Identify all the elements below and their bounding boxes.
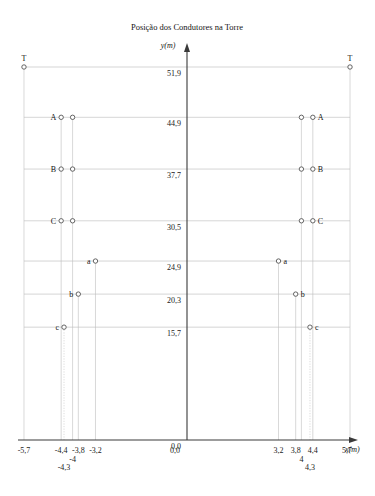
y-tick-label: 37,7 (167, 171, 181, 180)
x-tick-labels: -5,7-4,4-4,3-4-3,8-3,20,03,23,844,34,45,… (18, 446, 352, 472)
y-axis-arrow (184, 43, 190, 52)
data-point-label: A (50, 113, 56, 122)
data-point-label: C (318, 217, 323, 226)
data-point-label: c (315, 323, 319, 332)
x-tick-label: -5,7 (18, 446, 31, 455)
data-point-marker (276, 259, 280, 263)
data-point-marker (70, 167, 74, 171)
x-tick-label: 3,2 (274, 446, 284, 455)
data-point-marker (76, 292, 80, 296)
data-point-label: A (318, 113, 324, 122)
data-point-marker (70, 115, 74, 119)
x-tick-label: 3,8 (291, 446, 301, 455)
x-tick-label: 5,7 (342, 446, 352, 455)
y-tick-label: 24,9 (167, 263, 181, 272)
x-tick-label: -4,4 (55, 446, 68, 455)
chart-canvas: Posição dos Condutores na Torre y(m) x(m… (0, 0, 375, 496)
data-point-label: a (87, 257, 91, 266)
data-point-marker (311, 219, 315, 223)
data-point-marker (311, 167, 315, 171)
data-point-label: B (51, 165, 56, 174)
data-point-label: T (348, 54, 353, 63)
data-point-marker (348, 65, 352, 69)
x-tick-label: 4,4 (308, 446, 318, 455)
x-tick-label: 4 (299, 455, 303, 464)
data-point-marker (70, 219, 74, 223)
axes (18, 43, 358, 443)
data-point-marker (59, 167, 63, 171)
data-point-label: C (51, 217, 56, 226)
data-point-marker (299, 219, 303, 223)
y-tick-labels: 51,944,937,730,524,920,315,70,0 (167, 69, 181, 451)
data-point-marker (299, 167, 303, 171)
data-point-label: a (284, 257, 288, 266)
x-tick-label: -4,3 (58, 463, 71, 472)
data-point-marker (308, 325, 312, 329)
y-tick-label: 20,3 (167, 296, 181, 305)
x-tick-label: 0,0 (170, 446, 180, 455)
data-point-label: c (55, 323, 59, 332)
data-point-marker (62, 325, 66, 329)
data-point-marker (22, 65, 26, 69)
data-point-marker (93, 259, 97, 263)
data-point-label: b (301, 290, 305, 299)
y-tick-label: 30,5 (167, 223, 181, 232)
chart-title: Posição dos Condutores na Torre (131, 22, 243, 32)
data-point-marker (311, 115, 315, 119)
data-point-marker (59, 115, 63, 119)
x-tick-label: -3,8 (72, 446, 85, 455)
y-axis-label: y(m) (160, 41, 176, 50)
x-axis-arrow (349, 437, 358, 443)
y-tick-label: 51,9 (167, 69, 181, 78)
data-point-marker (59, 219, 63, 223)
x-tick-label: -3,2 (89, 446, 102, 455)
x-tick-label: -4 (69, 455, 76, 464)
data-point-label: T (22, 54, 27, 63)
data-point-label: b (69, 290, 73, 299)
data-point-marker (299, 115, 303, 119)
conductor-position-chart: Posição dos Condutores na Torre y(m) x(m… (0, 0, 375, 496)
data-point-label: B (318, 165, 323, 174)
y-tick-label: 44,9 (167, 119, 181, 128)
y-tick-label: 15,7 (167, 329, 181, 338)
data-point-marker (293, 292, 297, 296)
x-tick-label: 4,3 (305, 463, 315, 472)
